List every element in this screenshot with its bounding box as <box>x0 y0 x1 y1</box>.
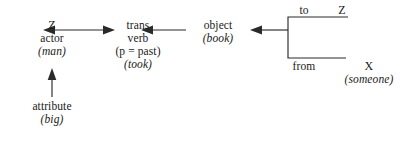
from-filler: (someone) <box>326 73 412 86</box>
object-role: object <box>186 19 250 32</box>
verb-feature: (p = past) <box>96 45 180 58</box>
to-role: to <box>286 4 322 17</box>
edge-attribute-actor <box>48 68 57 97</box>
bracket-path <box>288 17 348 58</box>
attribute-filler: (big) <box>14 113 90 126</box>
verb-role: verb <box>96 32 180 45</box>
arrow-up-icon <box>48 68 57 80</box>
node-to-role: to <box>286 4 322 17</box>
from-role: from <box>286 60 322 73</box>
verb-head: trans <box>96 19 180 32</box>
actor-filler: (man) <box>14 45 90 58</box>
verb-filler: (took) <box>96 58 180 71</box>
left-bracket-icon <box>288 17 348 58</box>
node-object: object (book) <box>186 19 250 45</box>
node-to-variable: Z <box>330 4 354 17</box>
diagram-canvas: Z actor (man) attribute (big) trans verb… <box>0 0 418 141</box>
node-actor: Z actor (man) <box>14 19 90 58</box>
from-variable: X <box>326 60 412 73</box>
object-filler: (book) <box>186 32 250 45</box>
actor-role: actor <box>14 32 90 45</box>
node-attribute: attribute (big) <box>14 100 90 126</box>
attribute-role: attribute <box>14 100 90 113</box>
node-verb: trans verb (p = past) (took) <box>96 19 180 71</box>
node-from-variable: X (someone) <box>326 60 412 86</box>
edge-bracket-object <box>250 26 288 35</box>
to-variable: Z <box>330 4 354 17</box>
actor-variable: Z <box>14 19 90 32</box>
node-from-role: from <box>286 60 322 73</box>
arrow-left-icon <box>250 26 262 35</box>
